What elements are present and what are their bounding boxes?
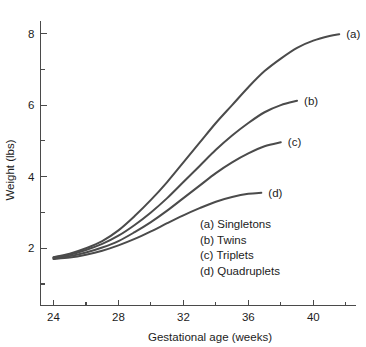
x-axis-title: Gestational age (weeks) [148, 331, 272, 343]
x-tick-label: 36 [242, 311, 255, 323]
y-tick-label: 8 [28, 28, 34, 40]
y-tick-label: 2 [28, 242, 34, 254]
x-axis-tick-labels: 2428323640 [47, 311, 320, 323]
legend-entry-2: (b) Twins [200, 234, 247, 246]
y-axis-title: Weight (lbs) [4, 139, 16, 200]
series-end-label-c: (c) [288, 136, 302, 148]
y-tick-label: 6 [28, 99, 34, 111]
series-end-label-d: (d) [268, 187, 282, 199]
y-axis-tick-labels: 2468 [28, 28, 35, 255]
axes-group [41, 21, 356, 306]
x-tick-label: 28 [112, 311, 125, 323]
x-tick-label: 40 [307, 311, 320, 323]
y-axis-ticks [41, 34, 47, 285]
legend: (a) Singletons(b) Twins(c) Triplets(d) Q… [200, 218, 280, 277]
legend-entry-3: (c) Triplets [200, 249, 254, 261]
legend-entry-4: (d) Quadruplets [200, 265, 280, 277]
legend-entry-1: (a) Singletons [200, 218, 271, 230]
growth-chart: 2428323640 2468 (a)(b)(c)(d) (a) Singlet… [0, 0, 366, 347]
series-end-labels: (a)(b)(c)(d) [268, 28, 360, 199]
x-tick-label: 24 [47, 311, 60, 323]
x-axis-ticks [53, 300, 345, 306]
y-tick-label: 4 [28, 171, 35, 183]
x-tick-label: 32 [177, 311, 190, 323]
series-end-label-b: (b) [304, 95, 318, 107]
series-curve-c [53, 142, 280, 258]
series-end-label-a: (a) [346, 28, 360, 40]
series-curve-b [53, 101, 297, 258]
chart-svg: 2428323640 2468 (a)(b)(c)(d) (a) Singlet… [0, 0, 366, 347]
